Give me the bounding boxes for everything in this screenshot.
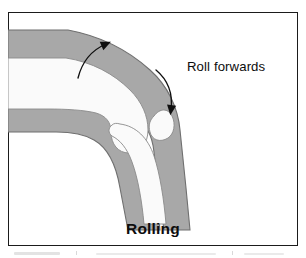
scan-artifact-mark	[76, 251, 77, 255]
scan-artifact-bar	[96, 253, 216, 255]
knee-joint-svg	[8, 12, 298, 246]
figure-root: Roll forwards Rolling	[0, 0, 306, 258]
figure-caption: Rolling	[0, 221, 306, 237]
roll-forwards-annotation: Roll forwards	[187, 60, 265, 73]
scan-artifact-bar	[14, 252, 60, 255]
scan-artifact-mark	[232, 251, 233, 255]
knee-joint-illustration	[8, 12, 298, 246]
scan-artifact-bar	[244, 253, 284, 255]
scan-artifacts	[0, 249, 306, 258]
